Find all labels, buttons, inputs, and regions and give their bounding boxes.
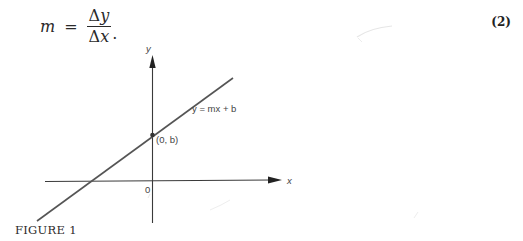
figure-caption: FIGURE 1 <box>15 223 77 237</box>
scan-artifact <box>210 200 230 210</box>
scan-artifact <box>357 26 392 37</box>
y-intercept-point <box>150 133 155 138</box>
y-axis-label: y <box>145 43 152 54</box>
intercept-label: (0, b) <box>156 134 178 145</box>
y-axis-arrow-icon <box>149 55 155 68</box>
linear-function-line <box>37 78 233 221</box>
line-equation-label: y = mx + b <box>192 103 236 114</box>
scan-artifact <box>358 38 362 42</box>
x-axis-label: x <box>286 175 293 186</box>
x-axis-arrow-icon <box>268 177 282 184</box>
x-axis <box>45 180 272 182</box>
figure-line-graph: y x 0 (0, b) y = mx + b <box>0 0 523 241</box>
origin-label: 0 <box>145 184 150 195</box>
scan-artifact <box>414 212 418 218</box>
